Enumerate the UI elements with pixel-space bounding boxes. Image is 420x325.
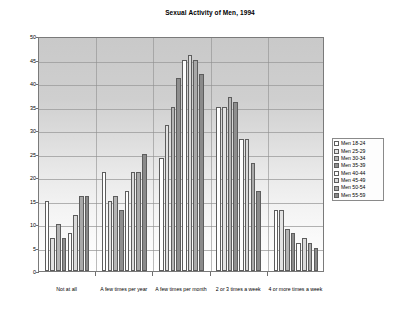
bar[interactable] [239, 139, 244, 271]
bar[interactable] [245, 139, 250, 271]
bar[interactable] [188, 55, 193, 271]
bar[interactable] [159, 158, 164, 271]
bar[interactable] [108, 201, 113, 272]
bar[interactable] [131, 172, 136, 271]
legend-item[interactable]: Men 50-54 [334, 184, 381, 191]
bar[interactable] [302, 238, 307, 271]
legend-item-label: Men 40-44 [341, 171, 365, 176]
legend-swatch-icon [334, 141, 339, 146]
legend-item[interactable]: Men 30-34 [334, 155, 381, 162]
legend-item[interactable]: Men 45-49 [334, 177, 381, 184]
bar[interactable] [176, 78, 181, 271]
legend-swatch-icon [334, 149, 339, 154]
x-tick-label: 4 or more times a week [268, 286, 322, 292]
chart-title: Sexual Activity of Men, 1994 [0, 9, 420, 16]
bar[interactable] [85, 196, 90, 271]
bar[interactable] [119, 210, 124, 271]
y-axis: Percent 05101520253035404550 [10, 37, 36, 272]
bar[interactable] [233, 102, 238, 271]
bar[interactable] [50, 238, 55, 271]
bar[interactable] [308, 243, 313, 271]
bar[interactable] [62, 238, 67, 271]
bar[interactable] [228, 97, 233, 271]
bar[interactable] [171, 107, 176, 272]
bar[interactable] [296, 243, 301, 271]
legend-item-label: Men 55-59 [341, 193, 365, 198]
x-axis: Not at allA few times per yearA few time… [38, 286, 324, 304]
legend-item[interactable]: Men 40-44 [334, 170, 381, 177]
y-tick-label: 15 [14, 199, 36, 205]
y-tick-label: 5 [14, 246, 36, 252]
legend-item[interactable]: Men 25-29 [334, 147, 381, 154]
y-tick-label: 35 [14, 105, 36, 111]
bar[interactable] [291, 233, 296, 271]
legend-item-label: Men 45-49 [341, 178, 365, 183]
bar[interactable] [222, 107, 227, 272]
y-tick-label: 0 [14, 269, 36, 275]
x-tick-label: A few times per year [100, 286, 147, 292]
legend-swatch-icon [334, 186, 339, 191]
bar-group [39, 38, 96, 271]
legend-swatch-icon [334, 178, 339, 183]
bar[interactable] [136, 172, 141, 271]
bar[interactable] [56, 224, 61, 271]
bar-series-container [39, 38, 323, 271]
legend-item-label: Men 30-34 [341, 156, 365, 161]
bar[interactable] [199, 74, 204, 271]
bar[interactable] [113, 196, 118, 271]
bar[interactable] [102, 172, 107, 271]
y-tick-label: 20 [14, 175, 36, 181]
bar[interactable] [193, 60, 198, 272]
x-tick-mark [267, 272, 268, 276]
legend-item[interactable]: Men 55-59 [334, 192, 381, 199]
bar[interactable] [125, 191, 130, 271]
bar-group [96, 38, 153, 271]
y-tick-label: 45 [14, 58, 36, 64]
chart-page: Sexual Activity of Men, 1994 Percent 051… [0, 0, 420, 325]
bar[interactable] [256, 191, 261, 271]
bar[interactable] [182, 60, 187, 272]
legend-item-label: Men 50-54 [341, 185, 365, 190]
y-tick-mark [36, 272, 39, 273]
y-tick-label: 30 [14, 128, 36, 134]
x-tick-mark [95, 272, 96, 276]
x-tick-label: A few times per month [155, 286, 206, 292]
bar[interactable] [73, 215, 78, 271]
legend-item[interactable]: Men 18-24 [334, 140, 381, 147]
legend-swatch-icon [334, 193, 339, 198]
bar-group [268, 38, 324, 271]
bar[interactable] [142, 154, 147, 272]
bar[interactable] [274, 210, 279, 271]
legend-swatch-icon [334, 156, 339, 161]
y-tick-label: 25 [14, 152, 36, 158]
bar[interactable] [279, 210, 284, 271]
bar[interactable] [251, 163, 256, 271]
bar[interactable] [165, 125, 170, 271]
legend-swatch-icon [334, 163, 339, 168]
y-tick-label: 10 [14, 222, 36, 228]
plot-area [38, 37, 324, 272]
legend-item-label: Men 35-39 [341, 163, 365, 168]
bar[interactable] [285, 229, 290, 271]
legend-swatch-icon [334, 171, 339, 176]
legend-item-label: Men 18-24 [341, 141, 365, 146]
bar[interactable] [68, 233, 73, 271]
x-tick-mark [152, 272, 153, 276]
bar[interactable] [314, 248, 319, 272]
bar-group [153, 38, 210, 271]
bar-group [211, 38, 268, 271]
legend-item[interactable]: Men 35-39 [334, 162, 381, 169]
bar[interactable] [216, 107, 221, 272]
y-tick-label: 40 [14, 81, 36, 87]
y-tick-label: 50 [14, 34, 36, 40]
x-tick-label: 2 or 3 times a week [216, 286, 261, 292]
legend[interactable]: Men 18-24Men 25-29Men 30-34Men 35-39Men … [332, 138, 384, 201]
bar[interactable] [79, 196, 84, 271]
legend-item-label: Men 25-29 [341, 149, 365, 154]
x-tick-label: Not at all [56, 286, 76, 292]
bar[interactable] [45, 201, 50, 272]
x-tick-mark [210, 272, 211, 276]
